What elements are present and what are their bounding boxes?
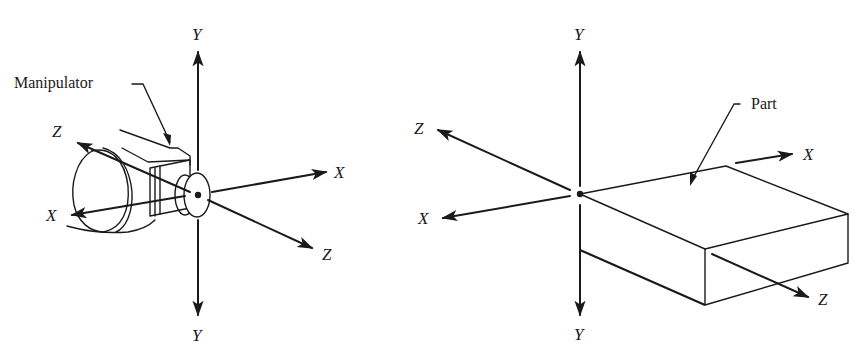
part-label: Part <box>751 95 777 112</box>
part-top-face <box>580 166 848 249</box>
manipulator-drawing <box>67 130 210 233</box>
tool-frame-origin <box>195 192 201 198</box>
x-axis-right-arrow <box>212 172 326 192</box>
manipulator-leader-arrowhead <box>163 133 171 146</box>
y-down-label: Y <box>192 326 203 345</box>
manipulator-label: Manipulator <box>14 74 94 92</box>
z-axis-back-arrow <box>438 130 570 190</box>
x-right-label: X <box>333 163 345 182</box>
part-frame-origin <box>577 191 583 197</box>
x-left-label: X <box>417 209 429 228</box>
y-up-label: Y <box>192 25 203 44</box>
z-front-label: Z <box>322 245 332 264</box>
x-axis-left-arrow <box>443 196 570 218</box>
manipulator-panel: Manipulator Y Y X X Z Z <box>14 25 345 345</box>
manipulator-housing-edge <box>122 148 190 162</box>
z-axis-back-arrow <box>78 143 190 192</box>
manipulator-leader-line <box>132 84 170 142</box>
y-down-label: Y <box>574 325 585 344</box>
x-right-label: X <box>802 145 814 164</box>
y-up-label: Y <box>574 25 585 44</box>
manipulator-housing-top <box>120 130 190 165</box>
z-axis-front-arrow <box>208 200 312 248</box>
x-axis-right-arrow <box>736 154 792 163</box>
manipulator-cylinder-outer <box>73 151 104 232</box>
z-back-label: Z <box>52 122 62 141</box>
z-front-label: Z <box>818 290 828 309</box>
z-back-label: Z <box>414 119 424 138</box>
coordinate-frames-diagram: Manipulator Y Y X X Z Z Part Y Y Z X X <box>0 0 862 352</box>
z-axis-front-arrow <box>712 254 808 297</box>
part-bottom-left-edge <box>580 250 705 305</box>
x-left-label: X <box>45 206 57 225</box>
part-box <box>580 166 848 305</box>
manipulator-cylinder-bottom <box>67 220 155 233</box>
part-panel: Part Y Y Z X X Z <box>414 25 848 344</box>
